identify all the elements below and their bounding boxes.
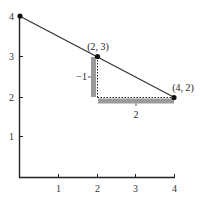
point-2-3: [95, 54, 100, 59]
y-tick-label-1: 1: [9, 131, 14, 142]
x-tick-label-1: 1: [56, 183, 61, 194]
y-tick-label-3: 3: [9, 51, 14, 62]
x-tick-label-3: 3: [133, 183, 138, 194]
point-0-4: [17, 13, 22, 18]
x-tick-label-2: 2: [95, 183, 100, 194]
x-tick-label-4: 4: [172, 183, 177, 194]
y-tick-label-4: 4: [9, 11, 14, 22]
slope-chart: 1 2 3 4 1 2 3 4 (2, 3) (4, 2) −1 2: [0, 0, 205, 203]
rise-label: −1: [76, 71, 87, 82]
point-label-4-2: (4, 2): [172, 82, 194, 94]
point-4-2: [171, 95, 176, 100]
run-bracket: [98, 99, 174, 104]
y-tick-label-2: 2: [9, 92, 14, 103]
run-label: 2: [134, 109, 139, 120]
point-label-2-3: (2, 3): [87, 41, 109, 53]
rise-bracket: [91, 57, 96, 97]
